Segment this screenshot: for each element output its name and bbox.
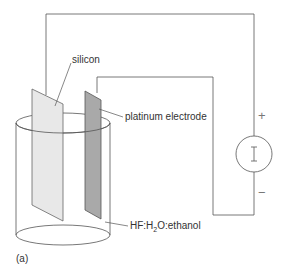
silicon-label: silicon	[72, 54, 100, 65]
panel-label: (a)	[16, 253, 28, 264]
solution-label: HF:H2O:ethanol	[130, 220, 201, 233]
minus-terminal: −	[258, 185, 266, 200]
outer-wire-bottom	[97, 77, 254, 215]
plus-terminal: +	[258, 108, 266, 123]
platinum-plate	[85, 91, 101, 219]
platinum-electrode-label: platinum electrode	[125, 111, 207, 122]
beaker-base	[16, 225, 110, 245]
silicon-plate	[32, 89, 63, 221]
